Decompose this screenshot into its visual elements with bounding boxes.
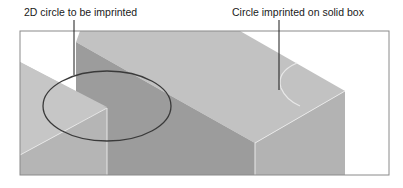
- diagram-canvas: [0, 0, 403, 188]
